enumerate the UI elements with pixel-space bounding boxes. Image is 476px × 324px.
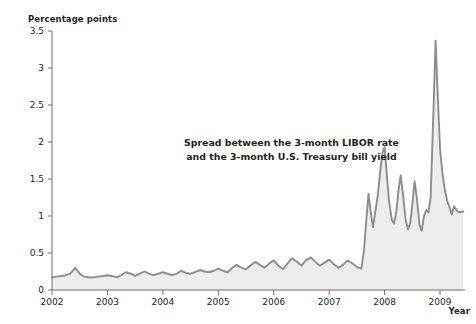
y-tick-label: 3 <box>6 63 44 73</box>
x-tick-label: 2004 <box>151 297 174 307</box>
chart-container: Percentage points Year 00.511.522.533.52… <box>0 0 476 324</box>
y-tick-marks <box>48 31 52 290</box>
x-tick-label: 2009 <box>429 297 452 307</box>
series-annotation-line1: Spread between the 3-month LIBOR rate <box>184 136 399 150</box>
series-fill-spread <box>52 41 463 290</box>
x-tick-marks <box>52 290 440 295</box>
x-tick-label: 2005 <box>207 297 230 307</box>
y-tick-label: 0 <box>6 285 44 295</box>
x-tick-label: 2002 <box>41 297 64 307</box>
x-tick-label: 2003 <box>96 297 119 307</box>
y-tick-label: 0.5 <box>6 248 44 258</box>
area-series-group <box>52 41 463 290</box>
x-tick-label: 2006 <box>262 297 285 307</box>
series-annotation: Spread between the 3-month LIBOR rate an… <box>184 136 399 164</box>
x-tick-label: 2008 <box>373 297 396 307</box>
y-tick-label: 1.5 <box>6 174 44 184</box>
x-tick-label: 2007 <box>318 297 341 307</box>
series-annotation-line2: and the 3-month U.S. Treasury bill yield <box>184 150 399 164</box>
y-tick-label: 3.5 <box>6 26 44 36</box>
y-tick-label: 2 <box>6 137 44 147</box>
y-tick-label: 2.5 <box>6 100 44 110</box>
y-tick-label: 1 <box>6 211 44 221</box>
